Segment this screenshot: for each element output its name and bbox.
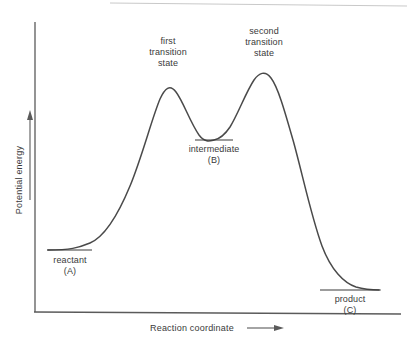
second-transition-state-label: second transition state (228, 26, 300, 59)
y-axis-title: Potential energy (14, 130, 24, 230)
first-transition-state-label: first transition state (132, 36, 204, 69)
y-axis-arrow-icon (27, 110, 33, 200)
scan-artifact-line (110, 3, 407, 6)
reaction-coordinate-diagram: first transition state second transition… (0, 0, 407, 340)
x-axis-arrow-icon (247, 325, 284, 331)
intermediate-label: intermediate (174, 144, 254, 155)
product-tag-label: (C) (319, 305, 381, 316)
intermediate-tag-label: (B) (174, 155, 254, 166)
reactant-tag-label: (A) (39, 266, 101, 277)
product-label: product (319, 294, 381, 305)
x-axis-title: Reaction coordinate (150, 323, 234, 333)
reactant-label: reactant (39, 255, 101, 266)
